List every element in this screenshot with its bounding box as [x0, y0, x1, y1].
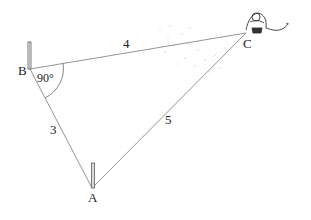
triangle-diagram: B C A 4 3 5 90°: [0, 0, 311, 220]
label-side-ab: 3: [50, 122, 57, 137]
person-icon: [246, 13, 288, 33]
label-side-bc: 4: [123, 36, 130, 51]
side-ac: [92, 33, 246, 188]
label-angle-b: 90°: [37, 71, 54, 85]
stake-b-icon: [28, 42, 31, 69]
side-bc: [30, 33, 246, 69]
label-point-a: A: [88, 190, 98, 205]
stake-a-icon: [92, 163, 95, 188]
label-side-ac: 5: [165, 112, 172, 127]
label-point-b: B: [18, 63, 27, 78]
label-point-c: C: [243, 36, 252, 51]
ground-texture: [159, 25, 226, 73]
side-ab: [30, 69, 92, 188]
